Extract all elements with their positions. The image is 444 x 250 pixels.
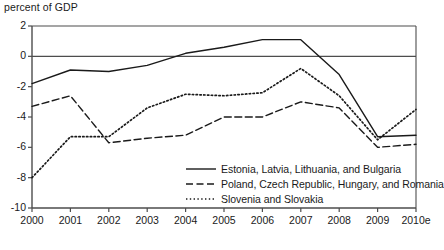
x-tick-label: 2001: [48, 214, 92, 226]
legend-key-solid-icon: [186, 163, 216, 175]
legend-key-dotted-icon: [186, 193, 216, 205]
series-line-0: [32, 40, 416, 137]
legend-item: Slovenia and Slovakia: [186, 191, 431, 206]
y-tick-label: -8: [2, 171, 26, 183]
y-tick-label: 0: [2, 49, 26, 61]
x-tick-label: 2004: [164, 214, 208, 226]
y-tick-label: 2: [2, 19, 26, 31]
chart-legend: Estonia, Latvia, Lithuania, and Bulgaria…: [186, 161, 431, 207]
y-tick-label: -4: [2, 110, 26, 122]
x-tick-label: 2006: [240, 214, 284, 226]
series-line-1: [32, 96, 416, 148]
x-tick-label: 2009: [356, 214, 400, 226]
x-tick-label: 2000: [10, 214, 54, 226]
x-tick-label: 2007: [279, 214, 323, 226]
y-tick-label: -6: [2, 140, 26, 152]
legend-label: Slovenia and Slovakia: [221, 193, 323, 205]
y-tick-label: -2: [2, 80, 26, 92]
legend-label: Poland, Czech Republic, Hungary, and Rom…: [221, 178, 444, 190]
x-tick-label: 2008: [317, 214, 361, 226]
legend-item: Estonia, Latvia, Lithuania, and Bulgaria: [186, 161, 431, 176]
x-tick-label: 2010e: [394, 214, 438, 226]
x-tick-label: 2003: [125, 214, 169, 226]
legend-key-dashed-icon: [186, 178, 216, 190]
legend-label: Estonia, Latvia, Lithuania, and Bulgaria: [221, 163, 401, 175]
x-tick-label: 2002: [87, 214, 131, 226]
legend-item: Poland, Czech Republic, Hungary, and Rom…: [186, 176, 431, 191]
series-layer: [32, 40, 416, 178]
y-tick-label: -10: [2, 201, 26, 213]
x-tick-label: 2005: [202, 214, 246, 226]
